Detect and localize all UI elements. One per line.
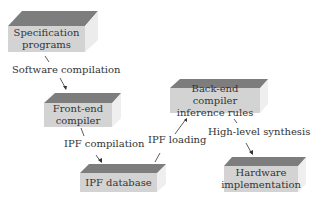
edge-label-ipf-loading: IPF loading <box>148 134 206 145</box>
edge-label-software-compilation: Software compilation <box>12 64 121 75</box>
node-specification-programs: Specificationprograms <box>8 26 85 52</box>
edge-label-ipf-compilation: IPF compilation <box>64 138 144 149</box>
node-label-line1: IPF database <box>85 177 152 189</box>
node-ipf-database: IPF database <box>80 173 157 192</box>
edge-label-high-level-synthesis: High-level synthesis <box>208 126 310 137</box>
node-hardware-implementation: Hardwareimplementation <box>224 166 298 192</box>
node-label-line2: compiler <box>53 115 103 127</box>
diagram-canvas: Specificationprograms Front-endcompiler … <box>0 0 324 204</box>
node-label-line1: Back-end compiler <box>170 83 260 107</box>
node-label-line1: Hardware <box>221 167 301 179</box>
node-label-line1: Specification <box>14 27 80 39</box>
node-label-line2: implementation <box>221 179 301 191</box>
node-front-end-compiler: Front-endcompiler <box>44 103 112 127</box>
node-label-line2: inference rules <box>170 107 260 119</box>
node-back-end-compiler: Back-end compilerinference rules <box>170 88 260 113</box>
node-label-line1: Front-end <box>53 103 103 115</box>
node-label-line2: programs <box>14 39 80 51</box>
